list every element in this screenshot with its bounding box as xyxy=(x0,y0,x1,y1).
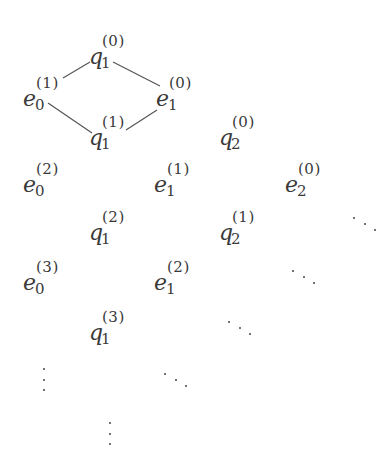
ellipsis-dot xyxy=(364,223,366,225)
ellipsis-dot xyxy=(43,389,45,391)
ellipsis-dot xyxy=(239,327,241,329)
node-superscript: (0) xyxy=(298,162,321,177)
node-q1-1: q1(1) xyxy=(89,117,139,153)
node-e0-3: e0(3) xyxy=(23,262,73,298)
ellipsis-dot xyxy=(249,333,251,335)
ellipsis-dot xyxy=(374,229,376,231)
node-superscript: (1) xyxy=(36,76,59,91)
node-superscript: (0) xyxy=(102,34,125,49)
node-subscript: 1 xyxy=(166,282,176,297)
ellipsis-dot xyxy=(109,422,111,424)
node-q2-0: q2(0) xyxy=(219,117,269,153)
ellipsis-dot xyxy=(185,385,187,387)
node-superscript: (1) xyxy=(102,115,125,130)
node-subscript: 2 xyxy=(231,232,241,247)
node-superscript: (2) xyxy=(167,260,190,275)
node-q1-2: q1(2) xyxy=(89,212,139,248)
node-superscript: (1) xyxy=(232,210,255,225)
edge-e0-1-to-q1-0 xyxy=(63,62,90,78)
node-superscript: (0) xyxy=(232,115,255,130)
node-subscript: 0 xyxy=(35,98,45,113)
ellipsis-dot xyxy=(109,433,111,435)
node-subscript: 2 xyxy=(297,184,307,199)
vertical-ellipsis-icon xyxy=(43,368,73,398)
vertical-ellipsis-icon xyxy=(109,422,139,452)
node-subscript: 0 xyxy=(35,282,45,297)
node-q1-0: q1(0) xyxy=(89,36,139,72)
node-e1-1: e1(1) xyxy=(154,164,204,200)
node-subscript: 2 xyxy=(231,137,241,152)
node-subscript: 1 xyxy=(101,332,111,347)
node-subscript: 1 xyxy=(101,232,111,247)
node-e0-1: e0(1) xyxy=(23,78,73,114)
ellipsis-dot xyxy=(353,217,355,219)
ellipsis-dot xyxy=(43,368,45,370)
node-q1-3: q1(3) xyxy=(89,312,139,348)
node-e2-0: e2(0) xyxy=(285,164,335,200)
node-superscript: (3) xyxy=(102,310,125,325)
diagonal-ellipsis-icon xyxy=(292,270,322,300)
node-subscript: 1 xyxy=(101,137,111,152)
node-e1-2: e1(2) xyxy=(154,262,204,298)
node-q2-1: q2(1) xyxy=(219,212,269,248)
node-e1-0: e1(0) xyxy=(156,78,206,114)
ellipsis-dot xyxy=(303,276,305,278)
diagonal-ellipsis-icon xyxy=(228,321,258,351)
ellipsis-dot xyxy=(164,373,166,375)
node-subscript: 1 xyxy=(166,184,176,199)
node-superscript: (2) xyxy=(36,162,59,177)
ellipsis-dot xyxy=(228,321,230,323)
ellipsis-dot xyxy=(292,270,294,272)
ellipsis-dot xyxy=(43,379,45,381)
node-subscript: 0 xyxy=(35,184,45,199)
ellipsis-dot xyxy=(175,379,177,381)
diagonal-ellipsis-icon xyxy=(164,373,194,403)
node-subscript: 1 xyxy=(101,56,111,71)
node-e0-2: e0(2) xyxy=(23,164,73,200)
node-superscript: (2) xyxy=(102,210,125,225)
ellipsis-dot xyxy=(313,282,315,284)
node-subscript: 1 xyxy=(168,98,178,113)
node-superscript: (1) xyxy=(167,162,190,177)
node-superscript: (3) xyxy=(36,260,59,275)
diagonal-ellipsis-icon xyxy=(353,217,383,247)
node-superscript: (0) xyxy=(169,76,192,91)
ellipsis-dot xyxy=(109,443,111,445)
